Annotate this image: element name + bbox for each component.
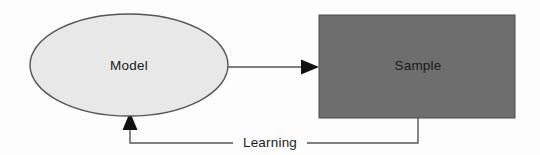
edge-model-to-sample	[228, 60, 319, 75]
edge-label-learning: Learning	[243, 135, 297, 150]
node-model[interactable]: Model	[30, 14, 228, 116]
arrowhead-icon-to-sample	[301, 60, 319, 75]
node-model-label: Model	[110, 58, 148, 73]
diagram-canvas: Learning Model Sample	[0, 0, 540, 155]
node-sample-label: Sample	[395, 58, 442, 73]
flow-diagram: Learning Model Sample	[0, 0, 540, 155]
node-sample[interactable]: Sample	[319, 15, 515, 118]
